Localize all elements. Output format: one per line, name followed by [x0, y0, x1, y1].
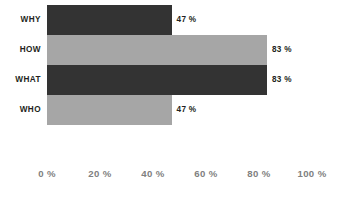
x-axis: 0 % 20 % 40 % 60 % 80 % 100 %: [0, 163, 344, 185]
value-label-why: 47 %: [177, 5, 197, 35]
bar-what: [47, 65, 267, 95]
bar-row: WHAT 83 %: [0, 65, 344, 95]
category-label-who: WHO: [0, 95, 41, 125]
x-tick-label: 100 %: [297, 163, 326, 185]
plot-area: WHY 47 % HOW 83 % WHAT 83 % WHO 47 %: [0, 0, 344, 132]
category-label-what: WHAT: [0, 65, 41, 95]
category-label-how: HOW: [0, 35, 41, 65]
bar-chart: WHY 47 % HOW 83 % WHAT 83 % WHO 47 % 0 %…: [0, 0, 344, 197]
bar-why: [47, 5, 172, 35]
value-label-how: 83 %: [272, 35, 292, 65]
x-tick-label: 40 %: [141, 163, 164, 185]
category-label-why: WHY: [0, 5, 41, 35]
bar-row: WHO 47 %: [0, 95, 344, 125]
bar-row: HOW 83 %: [0, 35, 344, 65]
bar-how: [47, 35, 267, 65]
value-label-who: 47 %: [177, 95, 197, 125]
x-tick-label: 60 %: [194, 163, 217, 185]
x-tick-label: 80 %: [247, 163, 270, 185]
value-label-what: 83 %: [272, 65, 292, 95]
x-tick-label: 0 %: [38, 163, 56, 185]
bar-who: [47, 95, 172, 125]
bar-row: WHY 47 %: [0, 5, 344, 35]
x-tick-label: 20 %: [88, 163, 111, 185]
